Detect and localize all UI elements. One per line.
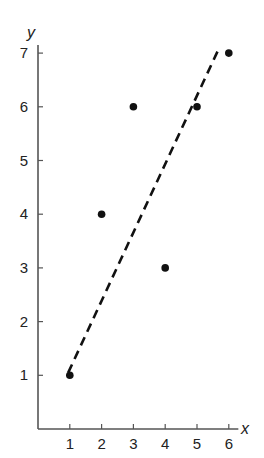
scatter-chart: 1234567 123456 y x <box>0 0 264 458</box>
y-tick-label: 1 <box>20 366 28 383</box>
x-tick-label: 3 <box>129 435 137 452</box>
data-points <box>66 49 233 379</box>
data-point <box>225 49 233 57</box>
y-axis: 1234567 <box>20 44 43 429</box>
y-tick-label: 2 <box>20 313 28 330</box>
data-point <box>98 210 106 218</box>
dashed-trend-line <box>68 48 219 373</box>
x-tick-label: 5 <box>193 435 201 452</box>
y-tick-label: 5 <box>20 152 28 169</box>
data-point <box>66 372 74 380</box>
x-axis-title: x <box>240 420 250 437</box>
data-point <box>130 103 138 111</box>
data-point <box>193 103 201 111</box>
y-tick-label: 3 <box>20 259 28 276</box>
x-tick-label: 6 <box>225 435 233 452</box>
x-tick-label: 1 <box>66 435 74 452</box>
x-axis: 123456 <box>38 424 238 452</box>
x-tick-label: 4 <box>161 435 169 452</box>
x-tick-label: 2 <box>97 435 105 452</box>
y-axis-title: y <box>26 24 36 41</box>
y-tick-label: 7 <box>20 44 28 61</box>
data-point <box>161 264 169 272</box>
y-tick-label: 6 <box>20 98 28 115</box>
y-tick-label: 4 <box>20 205 28 222</box>
trend-line <box>68 48 219 373</box>
